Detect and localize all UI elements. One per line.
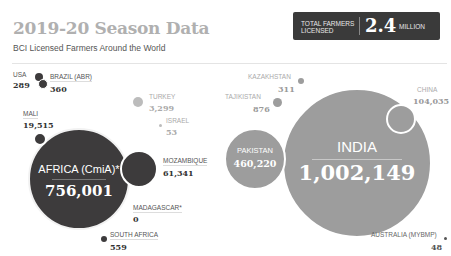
pakistan-value: 460,220 — [226, 158, 284, 169]
brazil-bubble — [38, 79, 48, 89]
south-africa-label: SOUTH AFRICA — [110, 231, 158, 240]
turkey-value: 3,299 — [149, 103, 174, 113]
mali-bubble — [33, 132, 47, 146]
india-label: INDIA — [284, 138, 430, 155]
turkey-bubble — [133, 97, 143, 107]
india-value: 1,002,149 — [284, 160, 430, 185]
tajikistan-label: TAJIKISTAN — [225, 93, 261, 100]
total-unit: MILLION — [399, 23, 425, 30]
total-label: TOTAL FARMERS LICENSED — [301, 20, 361, 34]
tajikistan-bubble — [273, 98, 282, 107]
south-africa-value: 559 — [110, 242, 127, 252]
australia-bubble — [444, 237, 447, 240]
kazakhstan-label: KAZAKHSTAN — [248, 73, 291, 80]
pakistan-bubble: PAKISTAN 460,220 — [224, 128, 286, 190]
page-title: 2019-20 Season Data — [13, 18, 209, 38]
australia-value: 48 — [431, 242, 442, 252]
kazakhstan-value: 311 — [278, 84, 295, 94]
total-divider — [359, 17, 360, 35]
china-bubble — [386, 104, 416, 134]
madagascar-value: 0 — [133, 214, 139, 224]
usa-value: 289 — [13, 80, 30, 90]
brazil-value: 360 — [50, 84, 67, 94]
israel-bubble — [159, 124, 162, 127]
israel-label: ISRAEL — [166, 117, 189, 124]
mali-value: 19,515 — [23, 120, 54, 130]
kazakhstan-bubble — [298, 78, 304, 84]
australia-label: AUSTRALIA (myBMP) — [371, 231, 437, 238]
turkey-label: TURKEY — [149, 93, 175, 100]
header-divider — [12, 63, 447, 64]
mozambique-bubble — [120, 150, 158, 188]
china-label: CHINA — [417, 86, 437, 93]
brazil-label: BRAZIL (ABR) — [50, 73, 92, 82]
africa-label: AFRICA (CmiA)* — [30, 163, 128, 175]
africa-value: 756,001 — [30, 182, 128, 200]
total-value: 2.4 — [365, 15, 396, 36]
pakistan-label: PAKISTAN — [226, 146, 284, 155]
south-africa-bubble — [101, 236, 107, 242]
tajikistan-value: 876 — [253, 104, 270, 114]
africa-divider — [52, 179, 106, 180]
page-subtitle: BCI Licensed Farmers Around the World — [13, 43, 165, 53]
china-value: 104,035 — [413, 96, 449, 106]
mozambique-value: 61,341 — [163, 168, 194, 178]
mozambique-label: MOZAMBIQUE — [163, 157, 207, 166]
israel-value: 53 — [166, 127, 177, 137]
total-farmers-box: TOTAL FARMERS LICENSED 2.4 MILLION — [293, 12, 440, 40]
usa-label: USA — [13, 71, 26, 78]
mali-label: MALI — [23, 110, 38, 119]
madagascar-label: MADAGASCAR* — [133, 204, 182, 213]
